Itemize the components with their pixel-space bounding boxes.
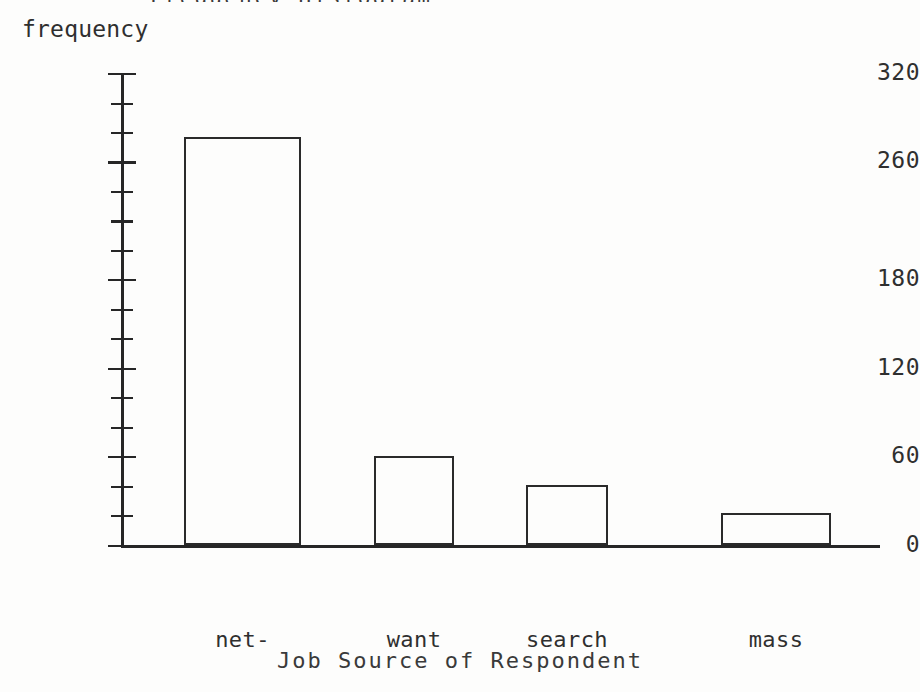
y-tick-minor-200 xyxy=(111,250,133,252)
y-tick-minor-300 xyxy=(111,103,133,105)
y-tick-label-60: 60 xyxy=(824,442,920,468)
bar-want-ads xyxy=(374,456,454,546)
bar-mass-mailings xyxy=(721,513,831,545)
x-axis-caption: Job Source of Respondent xyxy=(0,648,920,673)
y-tick-minor-160 xyxy=(111,309,133,311)
y-tick-major-260 xyxy=(108,161,136,163)
y-tick-minor-20 xyxy=(111,515,133,517)
y-tick-label-260: 260 xyxy=(824,147,920,173)
y-tick-major-320 xyxy=(108,73,136,75)
y-tick-minor-220 xyxy=(111,220,133,222)
y-tick-label-0: 0 xyxy=(824,531,920,557)
y-tick-major-120 xyxy=(108,368,136,370)
y-tick-label-180: 180 xyxy=(824,265,920,291)
y-tick-minor-40 xyxy=(111,486,133,488)
y-tick-major-180 xyxy=(108,279,136,281)
y-tick-major-60 xyxy=(108,456,136,458)
bar-networking xyxy=(184,137,301,545)
y-tick-label-320: 320 xyxy=(824,59,920,85)
y-tick-minor-80 xyxy=(111,427,133,429)
y-tick-label-120: 120 xyxy=(824,354,920,380)
y-tick-minor-140 xyxy=(111,338,133,340)
histogram-figure: Frequency Histogram frequency 320 260 18… xyxy=(0,0,920,692)
y-tick-major-0 xyxy=(108,545,136,547)
y-tick-minor-240 xyxy=(111,191,133,193)
bar-search-firms xyxy=(526,485,608,545)
plot-area: 320 260 180 120 60 0 net- working want a… xyxy=(0,0,920,692)
y-tick-minor-280 xyxy=(111,132,133,134)
y-tick-minor-100 xyxy=(111,397,133,399)
